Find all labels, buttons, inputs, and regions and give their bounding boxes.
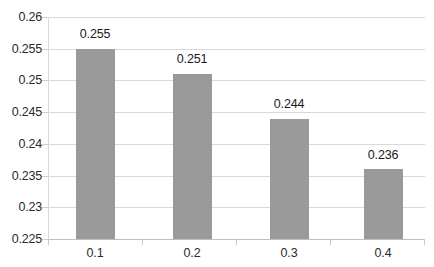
bar-value-label-3: 0.236: [343, 149, 423, 162]
y-tick-label: 0.255: [0, 43, 42, 56]
y-tick-mark: [41, 17, 48, 18]
bar-2: [270, 119, 309, 240]
y-tick-label: 0.25: [0, 74, 42, 87]
y-tick-mark: [41, 239, 48, 240]
plot-area: [48, 17, 425, 239]
x-tick-label-2: 0.3: [249, 247, 329, 260]
y-tick-label: 0.24: [0, 138, 42, 151]
x-tick-mark: [142, 239, 143, 245]
bar-value-label-1: 0.251: [152, 53, 232, 66]
x-tick-mark: [236, 239, 237, 245]
y-tick-label: 0.23: [0, 201, 42, 214]
y-axis-line: [48, 17, 49, 240]
x-tick-mark: [424, 239, 425, 245]
x-tick-mark: [48, 239, 49, 245]
y-tick-mark: [41, 49, 48, 50]
bar-1: [173, 74, 212, 239]
y-tick-mark: [41, 207, 48, 208]
y-tick-label: 0.245: [0, 106, 42, 119]
bar-value-label-2: 0.244: [249, 98, 329, 111]
bar-value-label-0: 0.255: [55, 28, 135, 41]
y-tick-label: 0.26: [0, 11, 42, 24]
y-tick-mark: [41, 112, 48, 113]
y-tick-mark: [41, 80, 48, 81]
bar-0: [76, 49, 115, 239]
x-tick-label-0: 0.1: [55, 247, 135, 260]
x-tick-mark: [330, 239, 331, 245]
y-tick-mark: [41, 176, 48, 177]
bar-chart: 0.26 0.255 0.25 0.245 0.24 0.235 0.23 0.…: [0, 0, 434, 267]
x-tick-label-1: 0.2: [152, 247, 232, 260]
y-tick-label: 0.225: [0, 233, 42, 246]
y-tick-label: 0.235: [0, 170, 42, 183]
bar-3: [364, 169, 403, 239]
y-tick-mark: [41, 144, 48, 145]
gridline: [48, 17, 425, 18]
x-tick-label-3: 0.4: [343, 247, 423, 260]
